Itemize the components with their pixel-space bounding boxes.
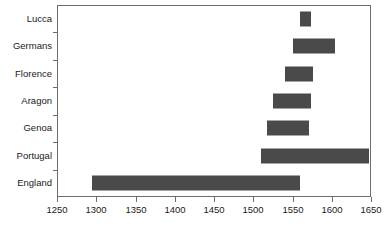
y-tick-mark xyxy=(53,170,57,171)
bar-england xyxy=(92,176,300,191)
x-axis-label-1400: 1400 xyxy=(155,204,195,215)
bar-lucca xyxy=(300,11,312,26)
y-tick-mark xyxy=(53,60,57,61)
bar-aragon xyxy=(273,94,311,109)
plot-area xyxy=(57,5,371,197)
x-tick-mark xyxy=(332,197,333,202)
y-tick-mark xyxy=(53,87,57,88)
x-axis-label-1300: 1300 xyxy=(76,204,116,215)
y-tick-mark xyxy=(53,115,57,116)
range-bar-chart: LuccaGermansFlorenceAragonGenoaPortugalE… xyxy=(0,0,388,234)
bar-florence xyxy=(285,66,312,81)
y-axis-label-aragon: Aragon xyxy=(0,96,52,106)
y-tick-mark xyxy=(53,142,57,143)
x-tick-mark xyxy=(253,197,254,202)
x-tick-mark xyxy=(96,197,97,202)
x-axis-label-1350: 1350 xyxy=(116,204,156,215)
y-axis-label-lucca: Lucca xyxy=(0,14,52,24)
y-axis-label-genoa: Genoa xyxy=(0,123,52,133)
y-axis-label-england: England xyxy=(0,178,52,188)
y-axis-label-florence: Florence xyxy=(0,69,52,79)
x-axis-label-1600: 1600 xyxy=(312,204,352,215)
x-axis-label-1500: 1500 xyxy=(233,204,273,215)
x-axis-label-1550: 1550 xyxy=(273,204,313,215)
x-axis-label-1450: 1450 xyxy=(194,204,234,215)
x-tick-mark xyxy=(293,197,294,202)
x-axis-label-1650: 1650 xyxy=(351,204,388,215)
y-axis-label-germans: Germans xyxy=(0,41,52,51)
x-tick-mark xyxy=(371,197,372,202)
y-axis-label-portugal: Portugal xyxy=(0,151,52,161)
bar-germans xyxy=(293,39,335,54)
x-axis-label-1250: 1250 xyxy=(37,204,77,215)
x-tick-mark xyxy=(214,197,215,202)
x-tick-mark xyxy=(175,197,176,202)
x-tick-mark xyxy=(136,197,137,202)
x-tick-mark xyxy=(57,197,58,202)
bar-portugal xyxy=(261,148,369,163)
bar-genoa xyxy=(267,121,309,136)
y-tick-mark xyxy=(53,32,57,33)
